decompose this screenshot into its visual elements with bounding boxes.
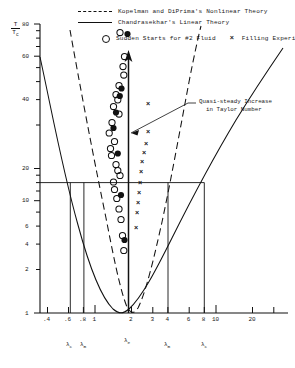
- svg-text:×: ×: [139, 168, 143, 176]
- y-tick-label-1: 1: [25, 310, 29, 317]
- svg-text:×: ×: [137, 189, 141, 197]
- x-axis-ticks: [48, 305, 274, 313]
- y-tick-label-2: 2: [25, 266, 29, 273]
- svg-text:×: ×: [138, 179, 142, 187]
- y-tick-label-40: 40: [22, 96, 29, 103]
- svg-text:×: ×: [144, 140, 148, 148]
- svg-text:×: ×: [135, 209, 139, 217]
- x-tick-label-1: 1: [93, 316, 97, 323]
- lambda-label-e-center: λe: [124, 337, 130, 346]
- y-tick-label-6: 6: [25, 223, 29, 230]
- curve-chandrasekhar-linear: [40, 48, 283, 313]
- svg-text:×: ×: [134, 224, 138, 232]
- svg-text:×: ×: [136, 199, 140, 207]
- lambda-label-c-left: λc: [66, 341, 72, 350]
- annotation-leader-line: [131, 103, 188, 133]
- y-tick-label-10: 10: [22, 197, 29, 204]
- x-tick-label-10: 10: [212, 316, 219, 323]
- x-tick-label-08: .8: [79, 316, 86, 323]
- lambda-label-c-right: λc: [201, 341, 207, 350]
- svg-text:×: ×: [140, 158, 144, 166]
- quasi-steady-annotation-line1: Quasi-steady Increase: [199, 98, 272, 106]
- x-tick-label-06: .6: [64, 316, 71, 323]
- svg-text:×: ×: [146, 100, 150, 108]
- scatter-x-crosses: × × × × × × × × × × ×: [134, 100, 150, 232]
- y-tick-label-80: 80: [22, 21, 29, 28]
- x-tick-label-6: 6: [187, 316, 191, 323]
- quasi-steady-annotation: Quasi-steady Increase in Taylor Number: [199, 98, 272, 113]
- y-axis-ticks: [34, 24, 40, 313]
- x-tick-label-3: 3: [151, 316, 155, 323]
- y-tick-label-60: 60: [22, 53, 29, 60]
- x-tick-label-2: 2: [129, 316, 133, 323]
- scatter-open-circles: [106, 29, 128, 253]
- x-tick-label-20: 20: [249, 316, 256, 323]
- x-tick-label-8: 8: [202, 316, 206, 323]
- lambda-label-m-right: λm: [164, 341, 170, 350]
- plot-canvas: × × × × × × × × × × ×: [0, 0, 295, 368]
- y-tick-label-20: 20: [22, 165, 29, 172]
- curve-kopelman-diprima-nonlinear: [70, 26, 201, 312]
- quasi-steady-annotation-line2: in Taylor Number: [199, 106, 272, 114]
- svg-text:×: ×: [142, 149, 146, 157]
- figure-root: Kopelman and DiPrima's Nonlinear Theory …: [0, 0, 295, 368]
- lambda-label-m-left: λm: [80, 341, 86, 350]
- y-tick-label-4: 4: [25, 241, 29, 248]
- svg-text:×: ×: [146, 128, 150, 136]
- x-tick-label-04: .4: [43, 316, 50, 323]
- x-tick-label-4: 4: [166, 316, 170, 323]
